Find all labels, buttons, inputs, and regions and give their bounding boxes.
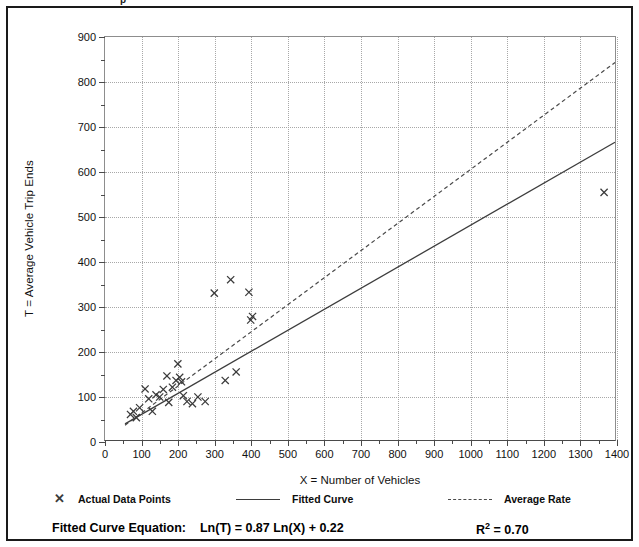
y-axis-tick — [101, 285, 105, 286]
legend-solid-line-icon — [236, 493, 280, 505]
data-point-marker — [133, 414, 140, 421]
x-axis-tick-label: 400 — [242, 449, 260, 460]
y-axis-tick-label: 100 — [78, 392, 96, 403]
data-point-marker — [202, 398, 209, 405]
gridline-vertical — [471, 37, 472, 440]
gridline-horizontal — [105, 172, 615, 173]
data-point-marker — [600, 189, 607, 196]
y-axis-tick — [101, 150, 105, 151]
y-axis-tick-label: 500 — [78, 212, 96, 223]
chart-figure: p T = Average Vehicle Trip Ends 01002003… — [0, 0, 639, 547]
y-axis-tick — [101, 240, 105, 241]
average-rate-line — [125, 63, 615, 426]
y-axis-tick — [99, 172, 105, 173]
chart-frame: T = Average Vehicle Trip Ends 0100200300… — [6, 6, 633, 541]
page-bleed-sliver: p — [0, 0, 639, 5]
gridline-horizontal — [105, 352, 615, 353]
gridline-horizontal — [105, 127, 615, 128]
fitted-curve-line — [125, 142, 615, 424]
y-axis-tick — [99, 307, 105, 308]
x-axis-tick-label: 1400 — [605, 449, 629, 460]
x-axis-tick-label: 0 — [102, 449, 108, 460]
x-axis-tick-label: 300 — [206, 449, 224, 460]
gridline-horizontal — [105, 262, 615, 263]
y-axis-tick — [99, 82, 105, 83]
legend-label-fitted-curve: Fitted Curve — [292, 493, 353, 505]
x-axis-tick — [599, 440, 600, 444]
plot-area: 0100200300400500600700800900100011001200… — [104, 36, 616, 441]
gridline-horizontal — [105, 397, 615, 398]
x-axis-tick — [343, 440, 344, 444]
legend-dashed-line-icon — [448, 493, 492, 505]
gridline-vertical — [544, 37, 545, 440]
x-axis-title: X = Number of Vehicles — [104, 474, 616, 486]
y-axis-tick — [99, 37, 105, 38]
x-axis-tick — [398, 440, 399, 446]
x-axis-tick-label: 1000 — [458, 449, 482, 460]
y-axis-tick-label: 300 — [78, 302, 96, 313]
data-point-marker — [130, 408, 137, 415]
x-axis-tick-label: 1200 — [532, 449, 556, 460]
gridline-vertical — [361, 37, 362, 440]
x-axis-tick — [544, 440, 545, 446]
x-axis-tick — [324, 440, 325, 446]
gridline-horizontal — [105, 217, 615, 218]
x-axis-tick-label: 900 — [425, 449, 443, 460]
x-axis-tick-label: 500 — [279, 449, 297, 460]
data-points-layer — [105, 37, 615, 440]
y-axis-tick — [101, 195, 105, 196]
y-axis-tick-label: 0 — [90, 437, 96, 448]
gridline-vertical — [617, 37, 618, 440]
legend-marker-x-icon: ✕ — [52, 493, 66, 505]
x-axis-tick — [507, 440, 508, 446]
y-axis-tick-label: 900 — [78, 32, 96, 43]
x-axis-tick-label: 700 — [352, 449, 370, 460]
data-point-marker — [165, 399, 172, 406]
x-axis-tick — [452, 440, 453, 444]
gridline-vertical — [178, 37, 179, 440]
x-axis-tick-label: 600 — [315, 449, 333, 460]
y-axis-tick — [99, 127, 105, 128]
x-axis-tick — [580, 440, 581, 446]
x-axis-tick-label: 800 — [388, 449, 406, 460]
y-axis-tick — [101, 420, 105, 421]
y-axis-tick-label: 600 — [78, 167, 96, 178]
legend-label-average-rate: Average Rate — [504, 493, 571, 505]
y-axis-title: T = Average Vehicle Trip Ends — [18, 36, 40, 441]
equation-label: Fitted Curve Equation: — [52, 521, 186, 535]
x-axis-tick — [178, 440, 179, 446]
legend-item-actual-data-points: ✕ Actual Data Points — [52, 493, 171, 505]
x-axis-tick — [361, 440, 362, 446]
y-axis-tick — [99, 262, 105, 263]
y-axis-tick-label: 200 — [78, 347, 96, 358]
x-axis-tick — [526, 440, 527, 444]
y-axis-tick — [99, 217, 105, 218]
data-point-marker — [227, 276, 234, 283]
equation-value: Ln(T) = 0.87 Ln(X) + 0.22 — [200, 521, 344, 535]
chart-legend: ✕ Actual Data Points Fitted Curve Averag… — [8, 491, 635, 517]
y-axis-tick — [99, 352, 105, 353]
data-point-marker — [249, 313, 256, 320]
legend-item-average-rate: Average Rate — [448, 493, 571, 505]
gridline-vertical — [142, 37, 143, 440]
legend-label-actual-data-points: Actual Data Points — [78, 493, 171, 505]
footer-row: Fitted Curve Equation: Ln(T) = 0.87 Ln(X… — [8, 521, 635, 543]
data-point-marker — [127, 411, 134, 418]
gridline-vertical — [251, 37, 252, 440]
data-point-marker — [160, 386, 167, 393]
x-axis-tick — [306, 440, 307, 444]
x-axis-tick-label: 1100 — [495, 449, 519, 460]
x-axis-tick — [160, 440, 161, 444]
x-axis-tick — [270, 440, 271, 444]
gridline-vertical — [434, 37, 435, 440]
x-axis-tick — [562, 440, 563, 444]
trend-lines-layer — [105, 37, 615, 440]
data-point-marker — [149, 408, 156, 415]
y-axis-tick — [101, 375, 105, 376]
y-axis-tick — [101, 105, 105, 106]
x-axis-tick — [105, 440, 106, 446]
fitted-curve-equation: Fitted Curve Equation: Ln(T) = 0.87 Ln(X… — [52, 521, 344, 535]
x-axis-tick-label: 1300 — [568, 449, 592, 460]
x-axis-tick — [471, 440, 472, 446]
x-axis-tick-label: 100 — [132, 449, 150, 460]
